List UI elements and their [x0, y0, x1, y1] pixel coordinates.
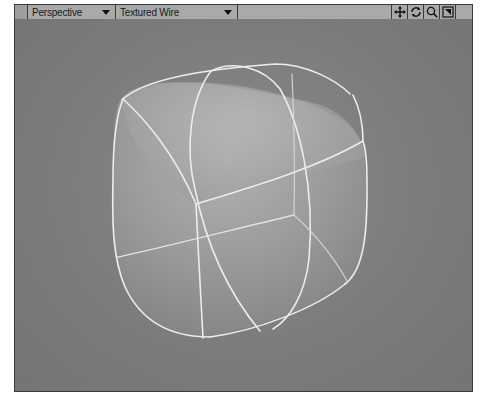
chevron-down-icon: [102, 10, 110, 15]
perspective-viewport[interactable]: [15, 19, 472, 391]
viewport-frame: Perspective Textured Wire: [14, 4, 473, 392]
toolbar-spacer: [238, 5, 392, 19]
maximize-icon: [442, 6, 454, 18]
chevron-down-icon: [224, 10, 232, 15]
maximize-view-button[interactable]: [440, 5, 456, 19]
view-mode-label: Perspective: [32, 7, 82, 18]
render-mode-label: Textured Wire: [120, 7, 179, 18]
rotate-view-button[interactable]: [408, 5, 424, 19]
view-mode-dropdown[interactable]: Perspective: [28, 5, 116, 19]
toolbar-end: [456, 5, 472, 19]
move-icon: [394, 6, 406, 18]
render-mode-dropdown[interactable]: Textured Wire: [116, 5, 238, 19]
viewport-grip[interactable]: [15, 5, 28, 19]
rotate-icon: [410, 6, 422, 18]
viewport-toolbar: Perspective Textured Wire: [15, 5, 472, 20]
move-view-button[interactable]: [392, 5, 408, 19]
zoom-view-button[interactable]: [424, 5, 440, 19]
subdivided-cube-object[interactable]: [15, 19, 472, 391]
magnify-icon: [426, 6, 438, 18]
